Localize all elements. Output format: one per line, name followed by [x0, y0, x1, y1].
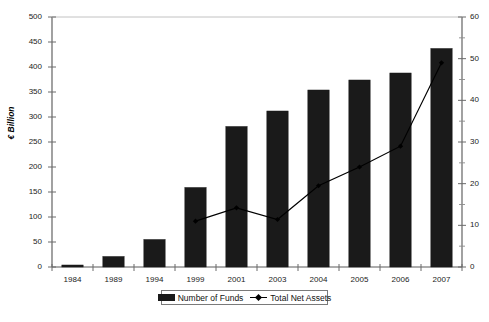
bar: [62, 265, 83, 267]
x-axis-tick: 1984: [51, 275, 95, 284]
bar: [267, 111, 288, 267]
x-axis-tick: 2007: [420, 275, 464, 284]
legend-item-total-net-assets: Total Net Assets: [250, 293, 331, 303]
chart-legend: Number of Funds Total Net Assets: [161, 290, 328, 305]
chart-plot-area: [0, 0, 489, 322]
x-axis-tick: 2001: [215, 275, 259, 284]
x-axis-tick: 2004: [297, 275, 341, 284]
bar: [431, 49, 452, 268]
x-axis-tick: 2005: [338, 275, 382, 284]
x-axis-tick: 1989: [92, 275, 136, 284]
y-axis-tick: 500: [16, 12, 42, 21]
legend-label-number-of-funds: Number of Funds: [178, 293, 244, 303]
chart-container: € Billion 050100150200250300350400450500…: [0, 0, 489, 322]
y-axis-tick: 200: [16, 162, 42, 171]
y-axis-tick: 100: [16, 212, 42, 221]
bar: [103, 257, 124, 268]
legend-item-number-of-funds: Number of Funds: [158, 293, 244, 303]
line-diamond-marker-icon: [250, 294, 267, 301]
bar: [226, 127, 247, 268]
y-axis-tick: 400: [16, 62, 42, 71]
legend-label-total-net-assets: Total Net Assets: [270, 293, 331, 303]
y-axis-tick: 50: [16, 237, 42, 246]
bar: [185, 188, 206, 268]
x-axis-tick: 1999: [174, 275, 218, 284]
y2-axis-tick: 10: [470, 220, 489, 229]
bar: [308, 90, 329, 267]
y-axis-tick: 450: [16, 37, 42, 46]
y2-axis-tick: 30: [470, 137, 489, 146]
y2-axis-tick: 20: [470, 179, 489, 188]
bar: [144, 240, 165, 268]
y2-axis-tick: 50: [470, 54, 489, 63]
x-axis-tick: 1994: [133, 275, 177, 284]
bar-swatch-icon: [158, 294, 175, 301]
y-axis-tick: 150: [16, 187, 42, 196]
y-axis-tick: 0: [16, 262, 42, 271]
bar: [390, 73, 411, 267]
y-axis-tick: 300: [16, 112, 42, 121]
y-axis-tick: 250: [16, 137, 42, 146]
y2-axis-tick: 40: [470, 95, 489, 104]
x-axis-tick: 2006: [379, 275, 423, 284]
y2-axis-tick: 60: [470, 12, 489, 21]
y-axis-tick: 350: [16, 87, 42, 96]
bar: [349, 80, 370, 267]
y2-axis-tick: 0: [470, 262, 489, 271]
x-axis-tick: 2003: [256, 275, 300, 284]
